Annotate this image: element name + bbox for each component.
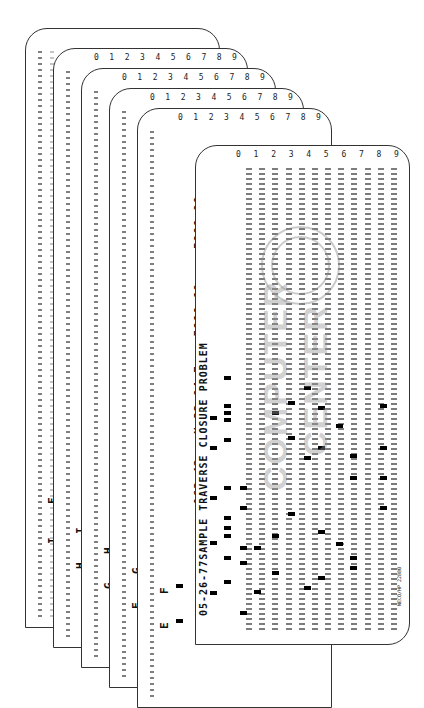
column-holes <box>66 71 70 639</box>
punched-hole <box>176 584 183 588</box>
punched-hole <box>224 516 231 520</box>
column-holes <box>94 91 98 659</box>
punched-hole <box>224 376 231 380</box>
card-imprint: NECO/HP 22880 <box>396 567 402 606</box>
punched-hole <box>224 534 231 538</box>
punched-hole <box>224 486 231 490</box>
punched-hole <box>210 496 217 500</box>
punched-hole <box>210 541 217 545</box>
punched-hole <box>254 546 261 550</box>
digit-row: 0123456789 <box>94 53 237 65</box>
punched-hole <box>224 556 231 560</box>
card-header-text: 05-26-77SAMPLE TRAVERSE CLOSURE PROBLEM <box>198 342 209 616</box>
punched-hole <box>240 486 247 490</box>
punched-hole <box>336 424 343 428</box>
punched-hole <box>210 591 217 595</box>
punched-hole <box>318 530 325 534</box>
punched-hole <box>240 506 247 510</box>
punched-hole <box>318 576 325 580</box>
digit-row: 0123456789 <box>236 150 399 162</box>
digit-row: 0123456789 <box>178 113 321 125</box>
punched-hole <box>224 580 231 584</box>
punched-hole <box>350 476 357 480</box>
punched-hole <box>350 454 357 458</box>
punched-hole <box>240 611 247 615</box>
punched-hole <box>224 438 231 442</box>
digit-row: 0123456789 <box>122 73 265 85</box>
punched-hole <box>210 416 217 420</box>
watermark-center: CENTER <box>296 304 335 456</box>
punched-hole <box>304 456 311 460</box>
column-holes <box>150 131 154 699</box>
punched-hole <box>350 566 357 570</box>
punched-hole <box>304 586 311 590</box>
punch-card-front: 0123456789 05-26-77SAMPLE TRAVERSE CLOSU… <box>195 145 410 645</box>
column-holes <box>38 51 42 619</box>
punched-hole <box>224 411 231 415</box>
punched-hole <box>224 418 231 422</box>
watermark-computer: COMPUTER <box>256 280 295 491</box>
punched-hole <box>336 542 343 546</box>
punched-hole <box>380 446 387 450</box>
punched-hole <box>224 404 231 408</box>
punched-hole <box>380 476 387 480</box>
punched-hole <box>380 404 387 408</box>
punched-hole <box>272 571 279 575</box>
card-label: E <box>158 621 171 629</box>
punched-hole <box>240 546 247 550</box>
digit-row: 0123456789 <box>150 93 293 105</box>
punched-hole <box>350 556 357 560</box>
punched-hole <box>288 512 295 516</box>
punched-hole <box>254 590 261 594</box>
punched-hole <box>380 506 387 510</box>
punched-hole <box>240 561 247 565</box>
column-holes <box>122 111 126 679</box>
punched-hole <box>224 526 231 530</box>
punched-hole <box>210 446 217 450</box>
punched-hole <box>272 534 279 538</box>
punched-hole <box>176 619 183 623</box>
card-label: F <box>158 586 171 594</box>
